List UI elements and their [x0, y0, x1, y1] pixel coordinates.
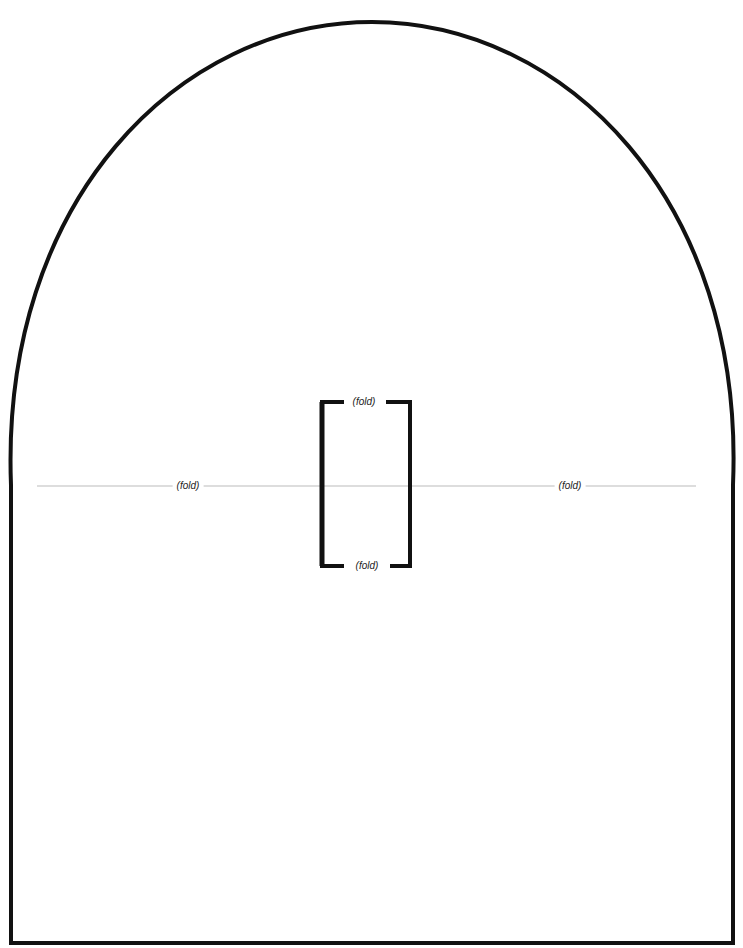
fold-label-left: (fold): [173, 480, 204, 492]
fold-label-bracket-bottom: (fold): [352, 560, 383, 572]
arch-outline: [11, 22, 734, 943]
fold-label-right: (fold): [555, 480, 586, 492]
fold-bracket: [322, 402, 410, 566]
fold-label-bracket-top: (fold): [349, 396, 380, 408]
pattern-diagram: [0, 0, 743, 948]
